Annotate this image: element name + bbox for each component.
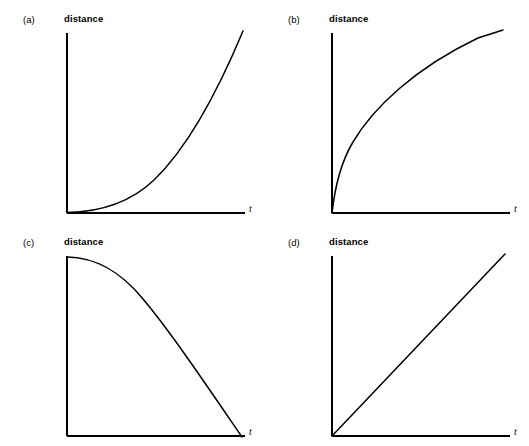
- panel-c-plot: [0, 223, 264, 446]
- panel-b-curve-decelerating: [332, 30, 503, 213]
- panel-a-curve-accelerating: [67, 31, 243, 213]
- panel-b-plot: [265, 0, 529, 223]
- panel-d: (d) distance t: [265, 223, 529, 446]
- figure-four-distance-time-graphs: (a) distance t (b) distance t (c) distan…: [0, 0, 529, 446]
- panel-a: (a) distance t: [0, 0, 264, 223]
- panel-a-plot: [0, 0, 264, 223]
- panel-b: (b) distance t: [265, 0, 529, 223]
- panel-c-curve-decreasing: [67, 257, 242, 437]
- panel-d-curve-linear: [332, 254, 505, 436]
- panel-d-plot: [265, 223, 529, 446]
- panel-c: (c) distance t: [0, 223, 264, 446]
